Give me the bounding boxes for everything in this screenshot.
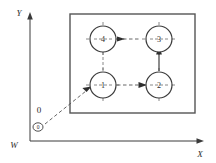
y-axis-arrowhead	[27, 12, 33, 20]
hole-group-3[interactable]: 3	[146, 26, 172, 52]
x-axis-label: X	[196, 149, 203, 159]
hole-group-4[interactable]: 4	[90, 26, 116, 52]
origin-marker: 0	[33, 123, 43, 131]
hole-label-3: 3	[157, 35, 161, 44]
y-axis-label: Y	[16, 8, 22, 18]
toolpath-arrowhead-4-dir	[117, 36, 125, 41]
hole-label-2: 2	[157, 81, 161, 90]
origin-label-w: W	[10, 140, 19, 150]
hole-group-2[interactable]: 2	[146, 72, 172, 98]
origin-marker-label: 0	[37, 124, 40, 130]
toolpath-segment-w-to-1	[45, 91, 86, 124]
x-axis-arrowhead	[197, 138, 205, 144]
hole-label-4: 4	[101, 35, 105, 44]
machining-diagram: Y X W 0 0	[0, 0, 216, 163]
program-origin-label: 0	[37, 105, 42, 115]
hole-group-1[interactable]: 1	[90, 72, 116, 98]
workpiece-outline	[70, 14, 195, 113]
coordinate-axes	[27, 12, 204, 144]
diagram-canvas: Y X W 0 0	[0, 0, 216, 163]
hole-label-1: 1	[101, 81, 105, 90]
